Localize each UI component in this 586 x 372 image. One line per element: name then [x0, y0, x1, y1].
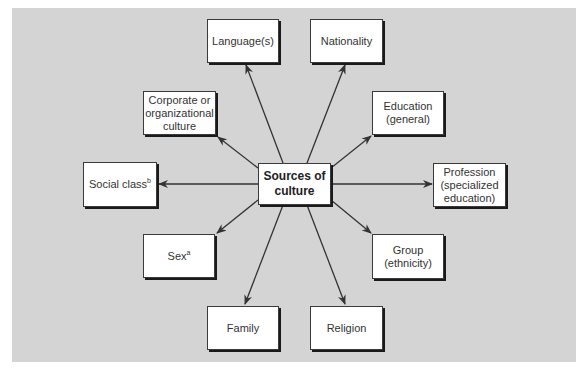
node-education: Education (general) — [372, 91, 444, 135]
arrow-to-nationality — [307, 65, 345, 163]
center-label: Sources of culture — [263, 169, 325, 199]
footnote-marker: a — [187, 249, 191, 256]
node-sex: Sexa — [143, 234, 215, 278]
node-sources-of-culture: Sources of culture — [258, 163, 331, 205]
node-nationality: Nationality — [310, 19, 383, 63]
node-corporate-culture: Corporate or organizational culture — [143, 91, 216, 135]
node-label: Corporate or organizational culture — [145, 94, 214, 133]
node-label-text: Sex — [168, 250, 187, 262]
node-family: Family — [207, 306, 279, 350]
node-label-text: Social class — [89, 178, 147, 190]
arrow-to-group — [331, 200, 371, 233]
node-label: Education (general) — [384, 100, 433, 126]
node-label: Social classb — [89, 178, 151, 191]
arrow-to-sex — [217, 200, 258, 233]
footnote-marker: b — [147, 177, 151, 184]
arrow-to-family — [245, 205, 283, 304]
node-label: Group (ethnicity) — [384, 244, 432, 270]
node-label: Nationality — [321, 35, 372, 48]
arrow-to-religion — [307, 205, 345, 304]
node-language: Language(s) — [207, 19, 279, 63]
node-religion: Religion — [310, 306, 383, 350]
node-label: Family — [227, 322, 259, 335]
arrow-to-corporate — [218, 137, 258, 168]
node-label: Profession (specialized education) — [440, 166, 498, 205]
arrow-to-education — [331, 136, 371, 168]
node-social-class: Social classb — [83, 162, 157, 207]
node-label: Religion — [327, 322, 367, 335]
node-label: Language(s) — [212, 35, 274, 48]
node-profession: Profession (specialized education) — [433, 163, 506, 207]
node-label: Sexa — [168, 250, 191, 263]
node-group: Group (ethnicity) — [372, 234, 444, 279]
arrow-to-language — [246, 65, 283, 163]
